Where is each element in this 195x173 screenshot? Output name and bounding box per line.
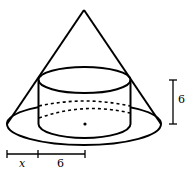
cylinder-height-label: 6 [178, 93, 185, 106]
gap-variable-label: x [19, 157, 26, 170]
cylinder-radius-label: 6 [57, 157, 64, 170]
cone-cylinder-diagram: 6 x 6 [0, 0, 195, 173]
cylinder-body-fill [39, 80, 130, 124]
center-point [83, 122, 86, 125]
